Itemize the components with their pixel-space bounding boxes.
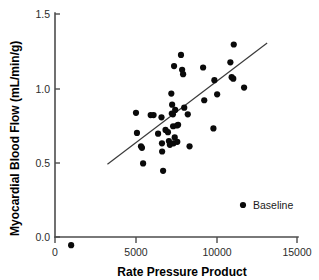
data-point <box>158 114 164 120</box>
data-point <box>159 148 165 154</box>
data-point <box>227 59 233 65</box>
y-tick-label-2: 1.0 <box>35 83 50 95</box>
data-point <box>211 77 217 83</box>
data-point <box>140 160 146 166</box>
data-point <box>214 91 220 97</box>
data-point <box>150 112 156 118</box>
data-point <box>165 129 171 135</box>
data-point <box>200 64 206 70</box>
x-tick-label-2: 10000 <box>202 246 231 258</box>
legend: Baseline <box>240 199 294 211</box>
data-point <box>134 130 140 136</box>
data-point <box>231 41 237 47</box>
data-point <box>230 76 236 82</box>
data-point <box>186 143 192 149</box>
x-axis-ticks <box>55 237 297 243</box>
x-tick-label-1: 5000 <box>124 246 148 258</box>
data-point <box>201 97 207 103</box>
data-point <box>185 111 191 117</box>
data-point <box>168 90 174 96</box>
data-point <box>159 140 165 146</box>
data-point <box>241 84 247 90</box>
data-point <box>178 52 184 58</box>
plot-canvas: 1.5 1.0 0.5 0.0 0 5000 10000 15000 Myoca… <box>0 0 319 280</box>
data-point <box>172 107 178 113</box>
y-tick-label-1: 0.5 <box>35 157 50 169</box>
data-point <box>169 102 175 108</box>
data-point <box>180 71 186 77</box>
y-axis-title: Myocardial Blood Flow (mL/min/g) <box>8 41 22 236</box>
x-tick-label-0: 0 <box>52 246 58 258</box>
y-tick-label-0: 0.0 <box>35 231 50 243</box>
data-point <box>160 168 166 174</box>
data-points-group <box>68 41 247 248</box>
data-point <box>181 105 187 111</box>
scatter-plot-figure: 1.5 1.0 0.5 0.0 0 5000 10000 15000 Myoca… <box>0 0 319 280</box>
y-tick-label-3: 1.5 <box>35 8 50 20</box>
x-axis-title: Rate Pressure Product <box>117 265 246 279</box>
data-point <box>155 131 161 137</box>
data-point <box>171 63 177 69</box>
data-point <box>133 110 139 116</box>
data-point <box>174 139 180 145</box>
data-point <box>68 242 74 248</box>
x-tick-label-3: 15000 <box>282 246 311 258</box>
data-point <box>139 145 145 151</box>
data-point <box>210 125 216 131</box>
legend-marker-baseline <box>240 202 246 208</box>
data-point <box>175 122 181 128</box>
legend-label-baseline: Baseline <box>253 199 293 211</box>
